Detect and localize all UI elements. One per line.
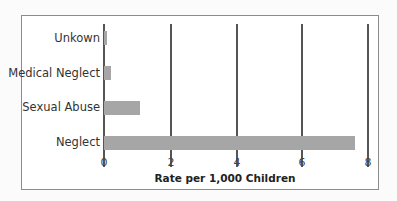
category-label: Neglect (56, 135, 100, 149)
category-label: Unkown (54, 31, 100, 45)
x-tick-label: 8 (358, 156, 378, 169)
category-label: Medical Neglect (8, 66, 100, 80)
bar (104, 31, 107, 45)
bar (104, 101, 140, 115)
category-label: Sexual Abuse (22, 100, 100, 114)
x-tick-label: 6 (292, 156, 312, 169)
bar (104, 136, 355, 150)
x-tick-label: 0 (94, 156, 114, 169)
bar (104, 66, 111, 80)
gridline-8 (367, 24, 369, 167)
x-axis-label: Rate per 1,000 Children (140, 172, 310, 184)
x-tick-label: 2 (161, 156, 181, 169)
x-tick-label: 4 (227, 156, 247, 169)
